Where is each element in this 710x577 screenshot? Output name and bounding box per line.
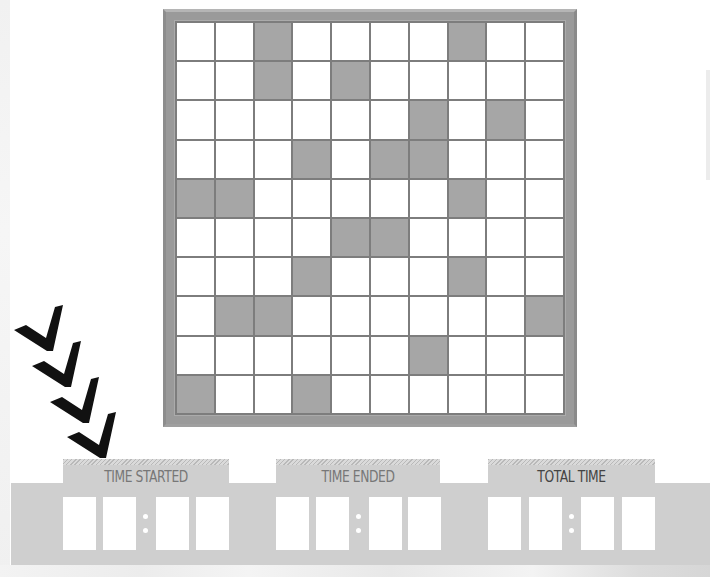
total-time-digit-4[interactable] bbox=[622, 497, 655, 550]
grid-cell[interactable] bbox=[526, 23, 563, 60]
grid-cell[interactable] bbox=[410, 23, 447, 60]
grid-cell[interactable] bbox=[332, 141, 369, 178]
grid-cell-shaded[interactable] bbox=[293, 376, 330, 413]
time-started-digit-4[interactable] bbox=[196, 497, 229, 550]
grid-cell-shaded[interactable] bbox=[410, 337, 447, 374]
grid-cell[interactable] bbox=[332, 258, 369, 295]
grid-cell[interactable] bbox=[255, 101, 292, 138]
grid-cell-shaded[interactable] bbox=[255, 297, 292, 334]
grid-cell[interactable] bbox=[526, 337, 563, 374]
grid-cell-shaded[interactable] bbox=[410, 101, 447, 138]
grid-cell[interactable] bbox=[216, 141, 253, 178]
grid-cell[interactable] bbox=[177, 141, 214, 178]
total-time-digit-3[interactable] bbox=[581, 497, 614, 550]
grid-cell[interactable] bbox=[216, 23, 253, 60]
grid-cell[interactable] bbox=[487, 337, 524, 374]
grid-cell[interactable] bbox=[177, 297, 214, 334]
time-ended-digit-3[interactable] bbox=[369, 497, 402, 550]
grid-cell[interactable] bbox=[177, 258, 214, 295]
grid-cell[interactable] bbox=[410, 219, 447, 256]
grid-cell[interactable] bbox=[216, 219, 253, 256]
grid-cell-shaded[interactable] bbox=[255, 23, 292, 60]
grid-cell[interactable] bbox=[255, 141, 292, 178]
total-time-digit-2[interactable] bbox=[529, 497, 562, 550]
grid-cell[interactable] bbox=[487, 23, 524, 60]
grid-cell[interactable] bbox=[487, 141, 524, 178]
grid-cell[interactable] bbox=[526, 258, 563, 295]
total-time-digit-1[interactable] bbox=[488, 497, 521, 550]
grid-cell[interactable] bbox=[216, 62, 253, 99]
grid-cell[interactable] bbox=[487, 62, 524, 99]
grid-cell[interactable] bbox=[371, 337, 408, 374]
grid-cell[interactable] bbox=[449, 62, 486, 99]
grid-cell[interactable] bbox=[332, 23, 369, 60]
grid-cell[interactable] bbox=[332, 376, 369, 413]
grid-cell[interactable] bbox=[526, 62, 563, 99]
grid-cell[interactable] bbox=[332, 297, 369, 334]
grid-cell[interactable] bbox=[410, 297, 447, 334]
grid-cell-shaded[interactable] bbox=[371, 219, 408, 256]
grid-cell-shaded[interactable] bbox=[177, 180, 214, 217]
grid-cell[interactable] bbox=[487, 258, 524, 295]
grid-cell[interactable] bbox=[487, 297, 524, 334]
grid-cell-shaded[interactable] bbox=[293, 141, 330, 178]
grid-cell-shaded[interactable] bbox=[449, 180, 486, 217]
grid-cell[interactable] bbox=[255, 180, 292, 217]
grid-cell[interactable] bbox=[293, 180, 330, 217]
grid-cell[interactable] bbox=[449, 297, 486, 334]
grid-cell[interactable] bbox=[487, 376, 524, 413]
grid-cell[interactable] bbox=[255, 376, 292, 413]
grid-cell[interactable] bbox=[526, 376, 563, 413]
grid-cell[interactable] bbox=[216, 101, 253, 138]
grid-cell[interactable] bbox=[177, 62, 214, 99]
grid-cell[interactable] bbox=[255, 337, 292, 374]
grid-cell[interactable] bbox=[216, 258, 253, 295]
grid-cell-shaded[interactable] bbox=[332, 219, 369, 256]
grid-cell-shaded[interactable] bbox=[177, 376, 214, 413]
time-ended-digit-2[interactable] bbox=[316, 497, 349, 550]
grid-cell[interactable] bbox=[293, 23, 330, 60]
time-started-digit-1[interactable] bbox=[63, 497, 96, 550]
grid-cell[interactable] bbox=[293, 219, 330, 256]
time-started-digit-2[interactable] bbox=[103, 497, 136, 550]
grid-cell-shaded[interactable] bbox=[293, 258, 330, 295]
grid-cell-shaded[interactable] bbox=[487, 101, 524, 138]
grid-cell-shaded[interactable] bbox=[371, 141, 408, 178]
grid-cell-shaded[interactable] bbox=[332, 62, 369, 99]
grid-cell[interactable] bbox=[371, 376, 408, 413]
grid-cell[interactable] bbox=[371, 180, 408, 217]
grid-cell[interactable] bbox=[410, 376, 447, 413]
time-ended-digit-1[interactable] bbox=[276, 497, 309, 550]
grid-cell[interactable] bbox=[526, 180, 563, 217]
grid-cell[interactable] bbox=[293, 297, 330, 334]
grid-cell[interactable] bbox=[293, 101, 330, 138]
grid-cell[interactable] bbox=[293, 62, 330, 99]
grid-cell[interactable] bbox=[526, 219, 563, 256]
grid-cell[interactable] bbox=[410, 62, 447, 99]
grid-cell[interactable] bbox=[449, 141, 486, 178]
grid-cell[interactable] bbox=[371, 101, 408, 138]
grid-cell[interactable] bbox=[216, 337, 253, 374]
grid-cell[interactable] bbox=[216, 376, 253, 413]
grid-cell-shaded[interactable] bbox=[255, 62, 292, 99]
grid-cell[interactable] bbox=[410, 180, 447, 217]
grid-cell[interactable] bbox=[177, 23, 214, 60]
grid-cell[interactable] bbox=[449, 101, 486, 138]
grid-cell[interactable] bbox=[526, 141, 563, 178]
grid-cell[interactable] bbox=[526, 101, 563, 138]
grid-cell-shaded[interactable] bbox=[449, 23, 486, 60]
grid-cell[interactable] bbox=[449, 376, 486, 413]
time-ended-digit-4[interactable] bbox=[408, 497, 441, 550]
time-started-digit-3[interactable] bbox=[156, 497, 189, 550]
grid-cell[interactable] bbox=[449, 337, 486, 374]
grid-cell-shaded[interactable] bbox=[526, 297, 563, 334]
grid-cell-shaded[interactable] bbox=[216, 180, 253, 217]
grid-cell[interactable] bbox=[255, 219, 292, 256]
grid-cell[interactable] bbox=[332, 101, 369, 138]
grid-cell-shaded[interactable] bbox=[449, 258, 486, 295]
grid-cell[interactable] bbox=[332, 337, 369, 374]
grid-cell[interactable] bbox=[371, 258, 408, 295]
grid-cell[interactable] bbox=[332, 180, 369, 217]
grid-cell[interactable] bbox=[293, 337, 330, 374]
grid-cell[interactable] bbox=[371, 23, 408, 60]
